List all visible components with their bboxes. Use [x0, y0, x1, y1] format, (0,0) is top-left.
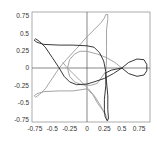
gray-curve-path	[34, 68, 108, 121]
x-tick-label: 0.75	[133, 125, 146, 132]
y-tick-label: -0.25	[14, 82, 29, 89]
y-tick-label: 0.25	[16, 47, 29, 54]
parametric-curve-chart: -0.75-0.5-0.2500.250.50.75 0.750.50.250-…	[0, 0, 157, 144]
x-tick-label: 0.25	[98, 125, 111, 132]
y-tick-label: -0.5	[18, 99, 30, 106]
x-tick-label: -0.75	[27, 125, 42, 132]
x-tick-label: -0.5	[47, 125, 59, 132]
y-tick-label: -0.75	[14, 116, 29, 123]
y-tick-label: 0.75	[16, 12, 29, 19]
y-tick-labels: 0.750.50.250-0.25-0.5-0.75	[14, 12, 29, 123]
gray-curve-path	[59, 15, 108, 72]
x-tick-labels: -0.75-0.5-0.2500.250.50.75	[27, 125, 145, 132]
y-tick-label: 0	[25, 64, 29, 71]
x-tick-label: 0.5	[117, 125, 126, 132]
x-tick-label: 0	[85, 125, 89, 132]
y-tick-label: 0.5	[20, 30, 29, 37]
x-tick-label: -0.25	[62, 125, 77, 132]
plot-frame	[32, 12, 150, 122]
